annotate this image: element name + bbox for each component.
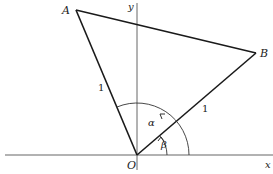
point-A-label: A: [61, 4, 70, 17]
segment-AB: [76, 10, 256, 53]
alpha-label: α: [148, 117, 155, 128]
alpha-arrowhead-icon: [160, 114, 165, 119]
x-axis-label: x: [265, 159, 271, 170]
beta-label: β: [160, 139, 167, 150]
segment-OA: [76, 10, 137, 155]
geometry-diagram: A B O x y 1 1 α β: [0, 0, 273, 174]
OA-length-label: 1: [98, 82, 104, 93]
segment-OB: [137, 53, 256, 155]
alpha-arc: [117, 103, 189, 155]
OB-length-label: 1: [202, 103, 208, 114]
y-axis-label: y: [127, 1, 134, 12]
point-B-label: B: [259, 47, 268, 60]
origin-label: O: [127, 159, 136, 172]
